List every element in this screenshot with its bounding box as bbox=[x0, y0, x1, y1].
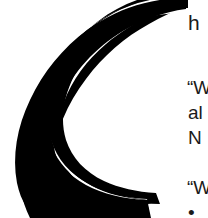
body-text-column: h “W al N “W • bbox=[186, 0, 208, 218]
quote-paragraph-1-line-1: “W bbox=[187, 78, 208, 97]
quote-paragraph-1-line-2: al bbox=[188, 103, 203, 122]
dropcap-container bbox=[0, 0, 208, 218]
quote-paragraph-2-line-2: • bbox=[188, 203, 195, 218]
quote-paragraph-1-line-3: N bbox=[188, 128, 202, 147]
page-canvas: h “W al N “W • bbox=[0, 0, 208, 218]
dropcap-letter-c-icon bbox=[0, 0, 208, 218]
dropcap-word-continuation: h bbox=[188, 12, 200, 33]
quote-paragraph-2-line-1: “W bbox=[187, 178, 208, 197]
